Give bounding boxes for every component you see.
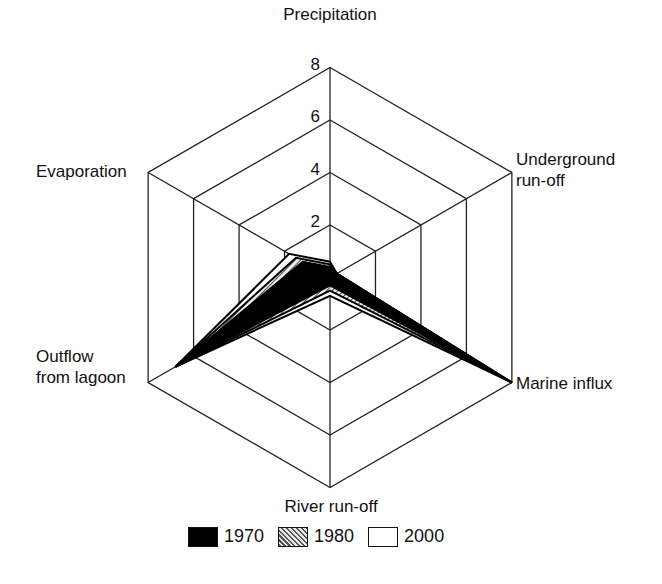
legend-label: 2000 bbox=[404, 526, 444, 547]
axis-label: River run-off bbox=[284, 497, 377, 516]
axis-label: Evaporation bbox=[36, 162, 127, 181]
tick-labels: 2468 bbox=[311, 55, 320, 232]
axis-label: Marine influx bbox=[516, 374, 613, 393]
axis-label: Precipitation bbox=[283, 5, 377, 24]
legend-swatch-solid bbox=[188, 527, 218, 547]
radar-series bbox=[175, 254, 511, 383]
legend: 1970 1980 2000 bbox=[188, 526, 458, 547]
legend-swatch-hatched bbox=[278, 527, 308, 547]
legend-label: 1970 bbox=[224, 526, 264, 547]
legend-item-2000: 2000 bbox=[368, 526, 444, 547]
legend-item-1970: 1970 bbox=[188, 526, 264, 547]
tick-label: 8 bbox=[311, 55, 320, 74]
series-1980 bbox=[175, 258, 511, 383]
series-2000 bbox=[175, 254, 511, 383]
axis-label: Undergroundrun-off bbox=[516, 150, 615, 190]
legend-label: 1980 bbox=[314, 526, 354, 547]
radar-chart: 2468 PrecipitationUndergroundrun-offMari… bbox=[0, 0, 662, 584]
tick-label: 6 bbox=[311, 107, 320, 126]
legend-item-1980: 1980 bbox=[278, 526, 354, 547]
axis-label: Outflowfrom lagoon bbox=[36, 347, 126, 387]
legend-swatch-white bbox=[368, 527, 398, 547]
tick-label: 2 bbox=[311, 212, 320, 231]
tick-label: 4 bbox=[311, 160, 320, 179]
